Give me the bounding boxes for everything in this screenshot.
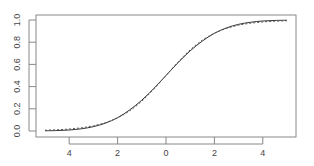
x-axis: 42024 (67, 137, 266, 158)
y-tick-label: 0.8 (12, 36, 22, 49)
y-tick-label: 0.4 (12, 80, 22, 93)
x-tick-label: 4 (260, 148, 265, 158)
y-axis: 0.00.20.40.60.81.0 (12, 14, 36, 138)
series-solid-line (45, 20, 287, 131)
y-tick-label: 0.0 (12, 125, 22, 138)
x-tick-label: 0 (163, 148, 168, 158)
y-tick-label: 1.0 (12, 14, 22, 27)
x-tick-label: 2 (212, 148, 217, 158)
chart: 0.00.20.40.60.81.0 42024 (0, 0, 314, 166)
x-tick-label: 4 (67, 148, 72, 158)
series-group (45, 20, 287, 131)
y-tick-label: 0.2 (12, 103, 22, 116)
y-tick-label: 0.6 (12, 58, 22, 71)
x-tick-label: 2 (115, 148, 120, 158)
